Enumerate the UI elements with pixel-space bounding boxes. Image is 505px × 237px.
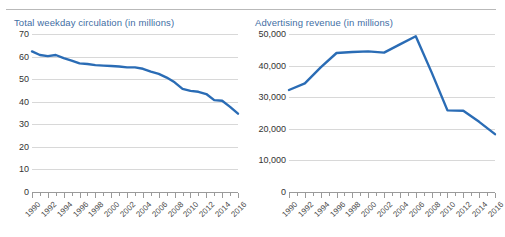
x-tick-major xyxy=(368,193,369,198)
x-tick-minor xyxy=(329,193,330,196)
x-tick-major xyxy=(175,193,176,198)
x-tick-major xyxy=(289,193,290,198)
series-line-circulation xyxy=(32,34,238,192)
x-tick-label: 1994 xyxy=(312,200,331,219)
y-zero-label-circulation: 0 xyxy=(14,187,29,197)
x-tick-label: 1996 xyxy=(71,200,90,219)
x-tick-major xyxy=(48,193,49,198)
plot-area-circulation: 10203040506070 xyxy=(14,34,238,192)
x-tick-minor xyxy=(440,193,441,196)
x-tick-major xyxy=(95,193,96,198)
y-tick-label: 70 xyxy=(14,29,29,39)
x-tick-label: 2008 xyxy=(423,200,442,219)
x-tick-major xyxy=(352,193,353,198)
x-tick-label: 2014 xyxy=(471,200,490,219)
x-tick-minor xyxy=(214,193,215,196)
y-tick-label: 40 xyxy=(14,97,29,107)
x-axis-circulation: 0 19901992199419961998200020022004200620… xyxy=(14,192,238,237)
x-tick-label: 2010 xyxy=(439,200,458,219)
x-tick-major xyxy=(400,193,401,198)
chart-panel-circulation: Total weekday circulation (in millions) … xyxy=(0,14,248,237)
y-tick-label: 20 xyxy=(14,142,29,152)
y-zero-label-advertising: 0 xyxy=(255,187,286,197)
x-tick-minor xyxy=(471,193,472,196)
x-tick-minor xyxy=(344,193,345,196)
x-tick-minor xyxy=(424,193,425,196)
y-tick-label: 30,000 xyxy=(255,92,286,102)
header-divider-rule xyxy=(6,9,496,10)
x-tick-label: 2002 xyxy=(375,200,394,219)
x-tick-label: 2010 xyxy=(182,200,201,219)
x-tick-major xyxy=(127,193,128,198)
x-tick-minor xyxy=(408,193,409,196)
x-tick-major xyxy=(305,193,306,198)
x-tick-major xyxy=(384,193,385,198)
x-tick-major xyxy=(190,193,191,198)
x-tick-label: 2002 xyxy=(118,200,137,219)
chart-title-advertising: Advertising revenue (in millions) xyxy=(255,17,393,28)
chart-title-circulation: Total weekday circulation (in millions) xyxy=(14,17,174,28)
x-tick-minor xyxy=(40,193,41,196)
x-tick-major xyxy=(80,193,81,198)
x-tick-major xyxy=(32,193,33,198)
x-tick-label: 2016 xyxy=(229,200,248,219)
x-tick-label: 2016 xyxy=(486,200,505,219)
x-tick-major xyxy=(337,193,338,198)
y-tick-label: 40,000 xyxy=(255,61,286,71)
x-tick-label: 2012 xyxy=(198,200,217,219)
x-tick-label: 1990 xyxy=(280,200,299,219)
y-tick-label: 30 xyxy=(14,119,29,129)
x-tick-minor xyxy=(167,193,168,196)
x-tick-major xyxy=(479,193,480,198)
x-tick-label: 1992 xyxy=(296,200,315,219)
chart-panel-advertising: Advertising revenue (in millions) 10,000… xyxy=(248,14,502,237)
x-tick-minor xyxy=(313,193,314,196)
x-tick-label: 1994 xyxy=(55,200,74,219)
x-tick-label: 2006 xyxy=(150,200,169,219)
x-tick-minor xyxy=(56,193,57,196)
x-tick-major xyxy=(206,193,207,198)
y-tick-label: 10,000 xyxy=(255,155,286,165)
x-tick-major xyxy=(64,193,65,198)
x-tick-label: 2006 xyxy=(407,200,426,219)
x-tick-major xyxy=(222,193,223,198)
x-tick-minor xyxy=(151,193,152,196)
x-axis-advertising: 0 19901992199419961998200020022004200620… xyxy=(255,192,495,237)
x-tick-minor xyxy=(376,193,377,196)
x-tick-minor xyxy=(103,193,104,196)
y-tick-label: 50,000 xyxy=(255,29,286,39)
x-tick-major xyxy=(238,193,239,198)
plot-area-advertising: 10,00020,00030,00040,00050,000 xyxy=(255,34,495,192)
series-line-advertising xyxy=(289,34,495,192)
x-tick-major xyxy=(111,193,112,198)
x-tick-label: 1996 xyxy=(328,200,347,219)
x-tick-major xyxy=(495,193,496,198)
x-tick-label: 1990 xyxy=(23,200,42,219)
x-tick-label: 2000 xyxy=(360,200,379,219)
x-tick-label: 1998 xyxy=(87,200,106,219)
x-tick-minor xyxy=(487,193,488,196)
y-tick-label: 10 xyxy=(14,164,29,174)
x-tick-minor xyxy=(230,193,231,196)
x-tick-major xyxy=(447,193,448,198)
x-tick-major xyxy=(463,193,464,198)
x-tick-minor xyxy=(72,193,73,196)
x-tick-label: 2008 xyxy=(166,200,185,219)
x-tick-label: 1992 xyxy=(39,200,58,219)
x-tick-label: 2004 xyxy=(134,200,153,219)
x-tick-minor xyxy=(360,193,361,196)
x-tick-minor xyxy=(119,193,120,196)
x-tick-major xyxy=(432,193,433,198)
x-tick-major xyxy=(321,193,322,198)
x-tick-minor xyxy=(135,193,136,196)
x-tick-major xyxy=(143,193,144,198)
y-tick-label: 20,000 xyxy=(255,124,286,134)
y-tick-label: 50 xyxy=(14,74,29,84)
x-tick-label: 2000 xyxy=(103,200,122,219)
x-tick-minor xyxy=(455,193,456,196)
x-tick-minor xyxy=(392,193,393,196)
x-tick-minor xyxy=(87,193,88,196)
x-tick-label: 2004 xyxy=(391,200,410,219)
x-tick-label: 2014 xyxy=(214,200,233,219)
